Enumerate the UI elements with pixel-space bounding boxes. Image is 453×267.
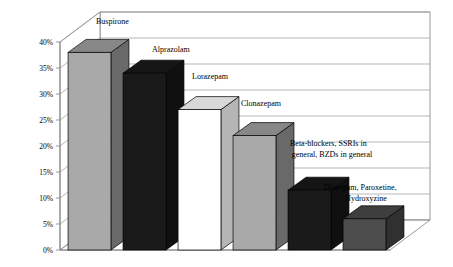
chart-container: 0%5%10%15%20%25%30%35%40% BuspironeAlpra… — [0, 0, 453, 267]
bar-front-face — [288, 190, 331, 250]
bar-front-face — [68, 52, 111, 250]
bar-label-line: Hydroxyzine — [345, 194, 387, 203]
bar-label-3: Lorazepam — [192, 72, 229, 81]
bar-front-face — [178, 110, 221, 250]
bar-label-line: Lorazepam — [192, 72, 229, 81]
y-axis-tick-label: 40% — [39, 38, 53, 47]
y-axis-tick-label: 15% — [39, 168, 53, 177]
bar-label-4: Clonazepam — [241, 99, 282, 108]
bar-label-line: Alprazolam — [152, 45, 191, 54]
bar-label-line: general, BZDs in general — [292, 150, 373, 159]
bar-label-5: Beta-blockers, SSRIs ingeneral, BZDs in … — [290, 139, 373, 159]
bar-front-face — [343, 219, 386, 250]
bar-label-line: Beta-blockers, SSRIs in — [290, 139, 367, 148]
bar-label-1: Buspirone — [96, 17, 129, 26]
y-axis-tick-label: 30% — [39, 90, 53, 99]
bar-6 — [343, 206, 404, 250]
bar-4 — [233, 123, 294, 250]
y-axis-tick-label: 35% — [39, 64, 53, 73]
bar-2 — [123, 60, 184, 250]
bar-label-2: Alprazolam — [152, 45, 191, 54]
bar-1 — [68, 39, 129, 250]
y-axis-tick-label: 5% — [43, 220, 53, 229]
bar-front-face — [233, 136, 276, 250]
bar-label-line: Clonazepam — [241, 99, 282, 108]
y-axis-tick-label: 10% — [39, 194, 53, 203]
bar-chart-3d: 0%5%10%15%20%25%30%35%40% BuspironeAlpra… — [0, 0, 453, 267]
y-axis-tick-label: 25% — [39, 116, 53, 125]
bar-front-face — [123, 73, 166, 250]
bar-label-line: Diazepam, Paroxetine, — [324, 183, 397, 192]
y-axis-tick-label: 20% — [39, 142, 53, 151]
y-axis-tick-label: 0% — [43, 246, 53, 255]
bar-3 — [178, 97, 239, 250]
bar-label-line: Buspirone — [96, 17, 129, 26]
